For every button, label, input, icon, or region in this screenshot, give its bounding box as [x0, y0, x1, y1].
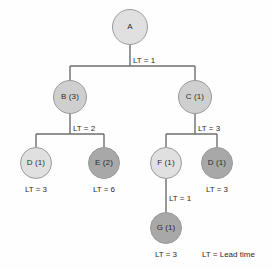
tree-node-d2: D (1) — [201, 147, 233, 179]
tree-node-label: C (1) — [186, 93, 204, 101]
leaf-label-lt-g: LT = 3 — [136, 251, 196, 259]
edge-label-lt-b: LT = 2 — [73, 125, 95, 133]
tree-node-f: F (1) — [150, 147, 182, 179]
tree-node-b: B (3) — [53, 80, 87, 114]
tree-node-label: F (1) — [157, 159, 174, 167]
tree-node-label: E (2) — [95, 159, 113, 167]
legend-lead-time: LT = Lead time — [202, 251, 255, 259]
tree-node-label: D (1) — [208, 159, 226, 167]
tree-node-e: E (2) — [88, 147, 120, 179]
edge-label-lt-f: LT = 1 — [169, 195, 191, 203]
tree-node-label: A — [127, 23, 132, 31]
tree-node-a: A — [112, 9, 148, 45]
tree-node-label: B (3) — [61, 93, 79, 101]
leaf-label-lt-e: LT = 6 — [74, 186, 134, 194]
leaf-label-lt-d2: LT = 3 — [187, 186, 247, 194]
tree-node-g: G (1) — [150, 212, 182, 244]
tree-node-label: G (1) — [157, 224, 176, 232]
legend-text: LT = Lead time — [202, 250, 255, 259]
tree-node-c: C (1) — [178, 80, 212, 114]
tree-node-d1: D (1) — [20, 147, 52, 179]
edge-label-lt-a: LT = 1 — [133, 57, 155, 65]
leaf-label-lt-d1: LT = 3 — [6, 186, 66, 194]
product-structure-tree: AB (3)C (1)D (1)E (2)F (1)D (1)G (1) LT … — [0, 0, 273, 269]
tree-node-label: D (1) — [27, 159, 45, 167]
edge-label-lt-c: LT = 3 — [198, 125, 220, 133]
